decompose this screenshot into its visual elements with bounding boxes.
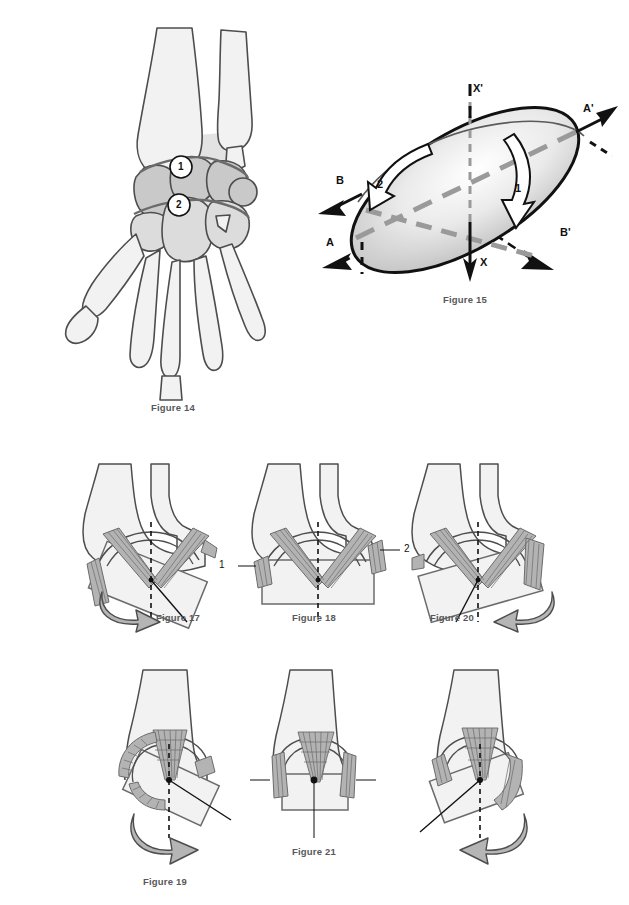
figure-18-motion-arrow xyxy=(488,588,558,628)
figure-16-caption: Figure 18 xyxy=(274,612,354,623)
figure-15-rotation-label-2: 2 xyxy=(377,178,383,190)
figure-14-artwork xyxy=(40,20,310,400)
axis-label-b: B xyxy=(336,174,344,186)
figure-15-rotation-label-1: 1 xyxy=(515,182,521,194)
axis-b xyxy=(318,194,362,216)
figure-19-artwork xyxy=(250,668,380,838)
axis-label-b-prime: B' xyxy=(560,226,571,238)
figure-19 xyxy=(250,668,380,838)
axis-label-x-prime: X' xyxy=(473,82,483,94)
figure-plate: 1 2 Figure 14 xyxy=(0,0,629,905)
figure-16-callout-1-label: 1 xyxy=(219,559,225,570)
figure-16 xyxy=(238,462,398,622)
figure-19-caption: Figure 21 xyxy=(274,846,354,857)
figure-17-caption: Figure 17 xyxy=(138,612,218,623)
figure-14-callout-1-label: 1 xyxy=(178,161,184,172)
figure-14-callout-2-label: 2 xyxy=(176,199,182,210)
figure-20-caption: Figure 19 xyxy=(125,876,205,887)
figure-21-motion-arrow xyxy=(450,808,530,856)
axis-label-a: A xyxy=(326,236,334,248)
figure-15-caption: Figure 15 xyxy=(425,294,505,305)
axis-a-arrowhead xyxy=(322,253,352,270)
figure-14: 1 2 xyxy=(40,20,310,400)
figure-16-artwork xyxy=(238,462,398,622)
figure-18-caption: Figure 20 xyxy=(412,612,492,623)
figure-15: X' X A' A B B' 1 2 xyxy=(318,70,618,300)
figure-15-artwork xyxy=(318,70,618,300)
figure-20-motion-arrow xyxy=(128,808,208,856)
figure-14-caption: Figure 14 xyxy=(133,402,213,413)
axis-label-a-prime: A' xyxy=(583,102,594,114)
axis-label-x: X xyxy=(480,256,487,268)
